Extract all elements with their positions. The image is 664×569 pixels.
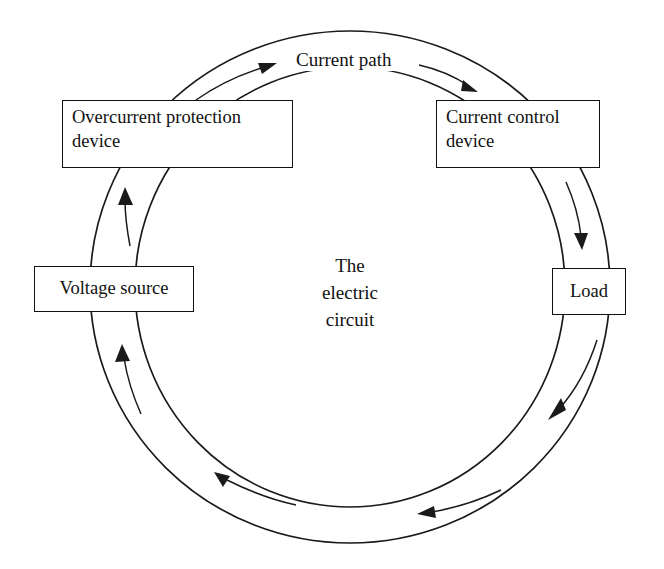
flow-arrow-bottom-left bbox=[214, 472, 296, 505]
flow-arrow-top-left bbox=[196, 63, 277, 100]
center-caption-the-electric-circuit: The electric circuit bbox=[270, 253, 430, 334]
diagram-canvas: Overcurrent protection device Current co… bbox=[0, 0, 664, 569]
node-voltage-source[interactable]: Voltage source bbox=[34, 266, 194, 312]
node-load[interactable]: Load bbox=[552, 268, 626, 315]
flow-arrow-top-right bbox=[419, 65, 478, 92]
node-overcurrent-protection-device[interactable]: Overcurrent protection device bbox=[62, 100, 293, 168]
current-path-label: Current path bbox=[291, 48, 397, 71]
node-current-control-device[interactable]: Current control device bbox=[436, 100, 600, 168]
flow-arrow-right-upper bbox=[566, 182, 588, 250]
flow-arrow-left-upper bbox=[118, 187, 133, 246]
